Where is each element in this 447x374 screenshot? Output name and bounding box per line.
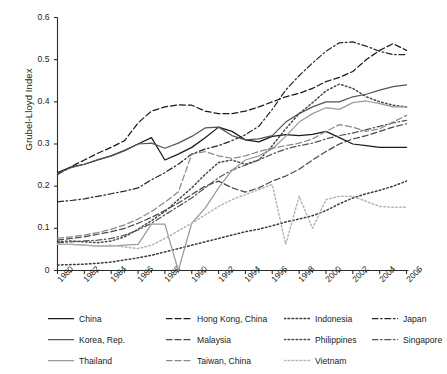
legend-label: Indonesia: [315, 314, 352, 324]
series-line-china: [58, 127, 407, 173]
legend-swatch-dashdot: [372, 335, 398, 344]
legend-item-singapore[interactable]: Singapore: [372, 335, 447, 345]
legend-swatch-dashdot: [372, 314, 398, 323]
legend-swatch-dashed: [166, 356, 192, 365]
data-series-layer: [58, 42, 407, 271]
legend-item-malaysia[interactable]: Malaysia: [166, 335, 284, 345]
legend-label: Singapore: [403, 335, 442, 345]
legend-item-japan[interactable]: Japan: [372, 314, 447, 324]
legend-swatch-dashed: [166, 335, 192, 344]
series-line-taiwan-china: [58, 115, 407, 238]
legend-item-indonesia[interactable]: Indonesia: [284, 314, 372, 324]
legend-item-korea-rep[interactable]: Korea, Rep.: [48, 335, 166, 345]
legend-label: Malaysia: [197, 335, 231, 345]
legend-swatch-solid: [48, 335, 74, 344]
legend-label: Vietnam: [315, 356, 346, 366]
legend-swatch-dashed: [166, 314, 192, 323]
legend-item-hong-kong-china[interactable]: Hong Kong, China: [166, 314, 284, 324]
legend-label: Taiwan, China: [197, 356, 251, 366]
legend-swatch-dotted: [284, 335, 310, 344]
series-line-japan: [58, 42, 407, 202]
legend-item-thailand[interactable]: Thailand: [48, 356, 166, 366]
series-line-philippines: [58, 84, 407, 243]
legend-label: Korea, Rep.: [79, 335, 125, 345]
legend-item-philippines[interactable]: Philippines: [284, 335, 372, 345]
legend-label: Thailand: [79, 356, 112, 366]
legend-item-china[interactable]: China: [48, 314, 166, 324]
legend-swatch-solid: [48, 356, 74, 365]
legend-swatch-dotted: [284, 356, 310, 365]
legend-item-taiwan-china[interactable]: Taiwan, China: [166, 356, 284, 366]
legend-swatch-solid: [48, 314, 74, 323]
legend-label: Philippines: [315, 335, 357, 345]
chart-legend: ChinaHong Kong, ChinaIndonesiaJapanKorea…: [48, 308, 420, 371]
legend-label: Japan: [403, 314, 426, 324]
legend-label: Hong Kong, China: [197, 314, 267, 324]
legend-item-vietnam[interactable]: Vietnam: [284, 356, 372, 366]
legend-swatch-dotted: [284, 314, 310, 323]
series-line-hong-kong-china: [58, 44, 407, 175]
legend-label: China: [79, 314, 101, 324]
